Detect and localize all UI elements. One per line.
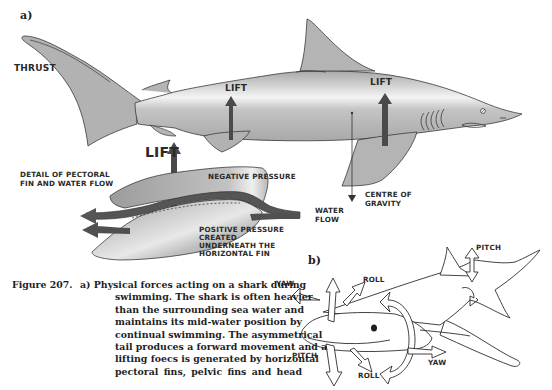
roll-bottom-label: ROLL [358, 372, 380, 380]
caption-body: a) Physical forces acting on a shark dur… [115, 279, 302, 378]
detail-label-line2: FIN AND WATER FLOW [20, 180, 113, 188]
detail-label-line1: DETAIL OF PECTORAL [20, 171, 110, 179]
negative-pressure-label: NEGATIVE PRESSURE [208, 173, 296, 181]
water-flow-label-line2: FLOW [315, 216, 339, 224]
caption-line: a) Physical forces acting on a shark dur… [80, 279, 302, 291]
caption-line: lifting foecs is generated by horizontal [115, 353, 302, 365]
centre-of-gravity-line2: GRAVITY [365, 200, 401, 208]
caption-line: continual swimming. The asymmetrical [115, 329, 302, 341]
shark-side-view [22, 19, 522, 186]
figure-207: a) THRUST LIFT LIFT LIFT DETAIL OF PECTO… [0, 0, 552, 390]
lift-pectoral-label: LIFT [145, 145, 179, 160]
yaw-bottom-label: YAW [428, 359, 446, 367]
thrust-label: THRUST [14, 64, 56, 73]
shark-front-view [292, 247, 540, 386]
caption-line: tail produces a forward movement and a [115, 341, 302, 353]
pitch-top-label: PITCH [476, 244, 501, 252]
panel-b-label: b) [308, 254, 321, 267]
figure-number: Figure 207. [12, 279, 73, 291]
panel-a-label: a) [20, 9, 32, 22]
caption-line: than the surrounding sea water and [115, 304, 302, 316]
caption-line: maintains its mid-water position by [115, 316, 302, 328]
caption-line: pectoral fins, pelvic fins and head [115, 366, 302, 378]
lift-tail-label: LIFT [225, 84, 247, 93]
centre-of-gravity-line1: CENTRE OF [365, 191, 412, 199]
caption-line: swimming. The shark is often heavier [115, 291, 302, 303]
roll-top-label: ROLL [363, 276, 385, 284]
positive-pressure-line4: HORIZONTAL FIN [199, 250, 270, 258]
figure-caption: Figure 207. a) Physical forces acting on… [12, 279, 302, 378]
water-flow-label-line1: WATER [315, 207, 344, 215]
lift-body-label: LIFT [370, 78, 392, 87]
